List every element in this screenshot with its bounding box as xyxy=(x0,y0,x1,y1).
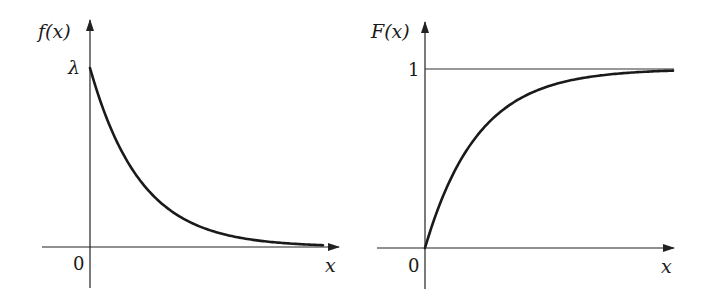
pdf-x-label: x xyxy=(325,254,336,276)
pdf-plot: f(x) λ 0 x xyxy=(36,20,339,288)
cdf-y-label: F(x) xyxy=(370,20,410,42)
pdf-y-label: f(x) xyxy=(36,20,71,42)
cdf-one-tick: 1 xyxy=(408,59,419,80)
cdf-curve xyxy=(425,71,673,248)
pdf-lambda-tick: λ xyxy=(67,56,80,78)
cdf-origin-label: 0 xyxy=(408,255,419,276)
cdf-plot: F(x) 1 0 x xyxy=(370,20,674,289)
cdf-x-label: x xyxy=(661,255,672,277)
pdf-origin-label: 0 xyxy=(73,253,84,274)
pdf-curve xyxy=(90,68,323,245)
figure: f(x) λ 0 x F(x) 1 0 x xyxy=(0,0,707,307)
